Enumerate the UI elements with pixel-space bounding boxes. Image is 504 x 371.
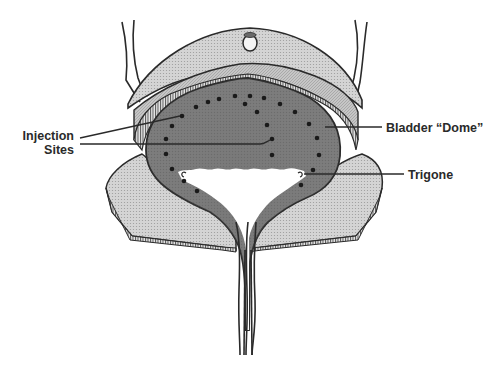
bladder-diagram (0, 0, 504, 371)
label-injection-line1: Injection (20, 129, 74, 143)
label-injection-line2: Sites (20, 143, 74, 157)
label-trigone: Trigone (408, 168, 453, 182)
label-bladder-dome: Bladder “Dome” (386, 121, 483, 135)
label-injection-sites: Injection Sites (20, 129, 74, 157)
